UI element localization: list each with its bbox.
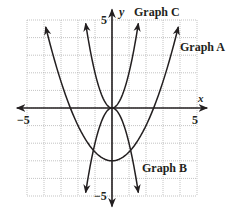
graph-b-label: Graph B bbox=[142, 161, 187, 175]
graph-plot: 5 y Graph C Graph A x −5 5 Graph B −5 bbox=[0, 0, 234, 215]
graph-a-label: Graph A bbox=[180, 40, 225, 54]
x-axis-label: x bbox=[197, 92, 204, 104]
y-min-tick-label: −5 bbox=[94, 189, 107, 203]
x-min-tick-label: −5 bbox=[17, 113, 30, 127]
x-max-tick-label: 5 bbox=[192, 113, 198, 127]
y-axis-label: y bbox=[117, 5, 125, 19]
y-max-tick-label: 5 bbox=[101, 13, 107, 27]
graph-c-label: Graph C bbox=[134, 5, 180, 19]
